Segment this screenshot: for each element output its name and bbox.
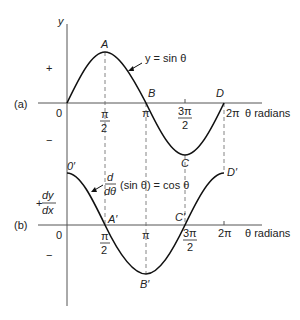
minus-sign-b: − <box>46 249 52 261</box>
dy-label: dy <box>42 189 55 201</box>
tick-2pi-a: 2π <box>226 107 240 119</box>
minus-sign-a: − <box>46 134 52 146</box>
tick-3pi-over-2-den-a: 2 <box>182 119 188 131</box>
x-axis-label-a: θ radians <box>245 107 291 119</box>
tick-2pi-b: 2π <box>218 227 232 239</box>
dtheta-label: dθ <box>104 185 116 197</box>
plus-sign-a: + <box>46 62 52 74</box>
sine-curve-label: y = sin θ <box>145 52 186 64</box>
point-A-prime: A′ <box>107 213 118 225</box>
point-C: C <box>181 157 189 169</box>
point-C-prime: C′ <box>175 211 186 223</box>
tick-3pi-over-2-den-b: 2 <box>187 241 193 253</box>
dashed-guides <box>105 52 224 274</box>
tick-3pi-over-2-num-a: 3π <box>178 105 192 117</box>
dx-label: dx <box>42 204 54 216</box>
origin-a: 0 <box>56 107 62 119</box>
x-axis-label-b: θ radians <box>245 227 291 239</box>
point-B-prime: B′ <box>140 278 150 290</box>
tick-pi-over-2-den-a: 2 <box>101 122 107 134</box>
origin-b: 0 <box>56 229 62 241</box>
tick-3pi-over-2-num-b: 3π <box>183 227 197 239</box>
tick-pi-over-2-num-b: π <box>101 230 109 242</box>
point-D-prime: D′ <box>227 166 238 178</box>
sine-derivative-diagram: y + − (a) 0 A B C D y = sin θ π 2 π 3π 2… <box>0 0 300 320</box>
point-B: B <box>148 87 155 99</box>
y-axis-label: y <box>57 15 65 27</box>
panel-b-tag: (b) <box>14 219 27 231</box>
point-D: D <box>216 87 224 99</box>
arrowhead-icon <box>128 66 134 71</box>
d-label: d <box>107 171 114 183</box>
tick-pi-b: π <box>142 229 150 241</box>
tick-pi-over-2-den-b: 2 <box>101 244 107 256</box>
point-O-prime: 0′ <box>67 160 76 172</box>
point-A: A <box>100 38 108 50</box>
cos-curve-label: (sin θ) = cos θ <box>120 179 189 191</box>
panel-a-tag: (a) <box>14 98 27 110</box>
tick-pi-a: π <box>142 107 150 119</box>
tick-pi-over-2-num-a: π <box>101 108 109 120</box>
